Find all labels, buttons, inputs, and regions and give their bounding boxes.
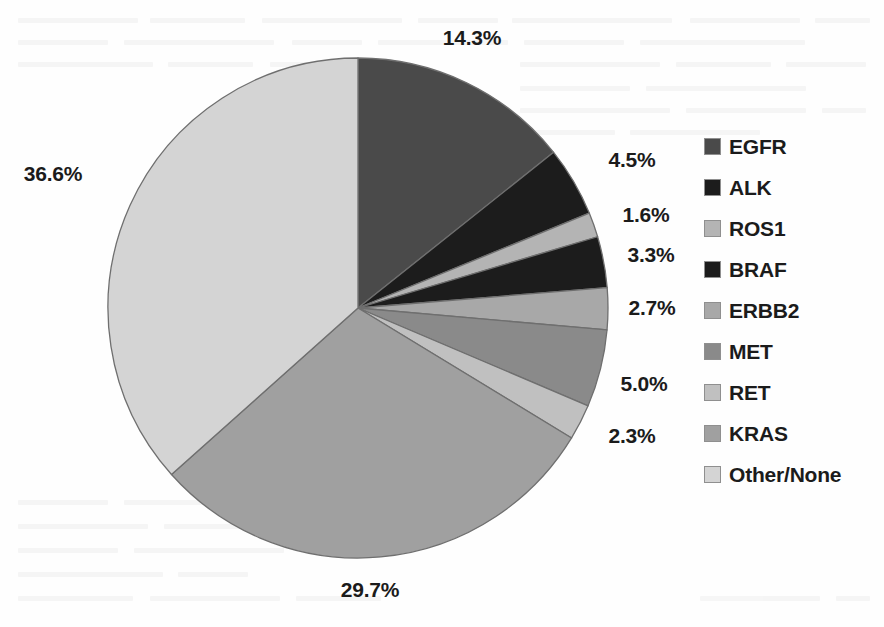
legend-item-label: RET: [729, 381, 770, 405]
pie-data-label: 5.0%: [620, 372, 667, 396]
legend-item-label: ALK: [729, 176, 772, 200]
pie-data-label: 2.3%: [608, 424, 655, 448]
pie-data-label: 36.6%: [24, 162, 83, 186]
legend-item-other-none[interactable]: Other/None: [704, 454, 874, 495]
legend-item-ros1[interactable]: ROS1: [704, 208, 874, 249]
legend-swatch-icon: [704, 179, 721, 196]
legend-item-kras[interactable]: KRAS: [704, 413, 874, 454]
legend-item-label: KRAS: [729, 422, 788, 446]
legend-swatch-icon: [704, 466, 721, 483]
legend-swatch-icon: [704, 302, 721, 319]
legend-item-label: BRAF: [729, 258, 787, 282]
pie-slice-group: [108, 58, 608, 558]
legend-item-erbb2[interactable]: ERBB2: [704, 290, 874, 331]
pie-chart-page: 14.3%4.5%1.6%3.3%2.7%5.0%2.3%29.7%36.6% …: [0, 0, 884, 627]
pie-data-label: 1.6%: [622, 203, 669, 227]
legend-swatch-icon: [704, 384, 721, 401]
pie-data-label: 4.5%: [608, 148, 655, 172]
legend-swatch-icon: [704, 343, 721, 360]
pie-data-label: 14.3%: [443, 26, 502, 50]
chart-legend: EGFRALKROS1BRAFERBB2METRETKRASOther/None: [704, 126, 874, 495]
legend-item-label: Other/None: [729, 463, 841, 487]
pie-chart: 14.3%4.5%1.6%3.3%2.7%5.0%2.3%29.7%36.6% …: [0, 0, 884, 627]
legend-item-label: MET: [729, 340, 773, 364]
legend-item-label: EGFR: [729, 135, 787, 159]
pie-data-label: 29.7%: [341, 578, 400, 602]
legend-item-label: ROS1: [729, 217, 785, 241]
legend-item-ret[interactable]: RET: [704, 372, 874, 413]
pie-data-label: 3.3%: [627, 243, 674, 267]
legend-item-egfr[interactable]: EGFR: [704, 126, 874, 167]
legend-item-label: ERBB2: [729, 299, 799, 323]
legend-swatch-icon: [704, 138, 721, 155]
legend-swatch-icon: [704, 261, 721, 278]
legend-swatch-icon: [704, 425, 721, 442]
legend-item-alk[interactable]: ALK: [704, 167, 874, 208]
pie-data-label: 2.7%: [628, 296, 675, 320]
legend-swatch-icon: [704, 220, 721, 237]
legend-item-braf[interactable]: BRAF: [704, 249, 874, 290]
legend-item-met[interactable]: MET: [704, 331, 874, 372]
